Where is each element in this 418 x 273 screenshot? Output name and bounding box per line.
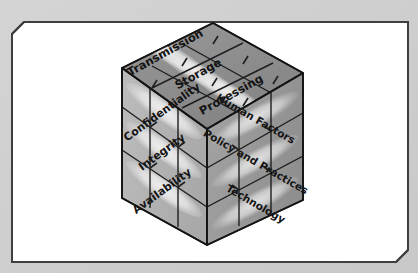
figure-canvas: Transmission Storage Processing xyxy=(0,0,418,273)
mccumber-cube-diagram: Transmission Storage Processing xyxy=(0,0,418,273)
